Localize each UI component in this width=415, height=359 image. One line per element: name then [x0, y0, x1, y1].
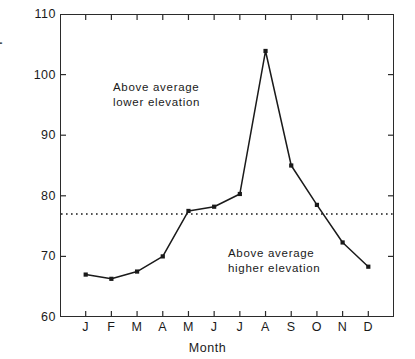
x-axis-tick-label: J — [82, 320, 89, 334]
x-axis-tick-labels: JFMAMJJASOND — [60, 320, 394, 340]
axis-ticks — [60, 14, 394, 317]
x-axis-tick-label: F — [107, 320, 115, 334]
data-point-marker — [84, 272, 88, 276]
data-point-marker — [341, 240, 345, 244]
x-axis-tick-label: D — [364, 320, 374, 334]
data-point-marker — [366, 265, 370, 269]
x-axis-tick-label: M — [183, 320, 194, 334]
x-axis-tick-label: M — [132, 320, 143, 334]
precipitation-ratio-chart: Precipitation ratio, % 60708090100110 JF… — [0, 0, 415, 359]
data-point-marker — [161, 254, 165, 258]
data-point-marker — [109, 277, 113, 281]
x-axis-tick-label: N — [338, 320, 348, 334]
annotation-above-average-lower-elevation: Above average lower elevation — [113, 80, 200, 110]
data-point-marker — [263, 49, 267, 53]
data-point-marker — [315, 203, 319, 207]
data-point-marker — [212, 205, 216, 209]
x-axis-tick-label: J — [236, 320, 243, 334]
data-point-marker — [238, 192, 242, 196]
x-axis-title: Month — [0, 341, 415, 355]
data-point-marker — [289, 163, 293, 167]
chart-data-layer — [0, 0, 415, 359]
annotation-above-average-higher-elevation: Above average higher elevation — [228, 246, 320, 276]
x-axis-tick-label: J — [211, 320, 218, 334]
x-axis-tick-label: A — [158, 320, 167, 334]
x-axis-tick-label: S — [287, 320, 296, 334]
x-axis-tick-label: A — [261, 320, 270, 334]
data-point-marker — [186, 209, 190, 213]
x-axis-tick-label: O — [312, 320, 322, 334]
data-point-marker — [135, 269, 139, 273]
